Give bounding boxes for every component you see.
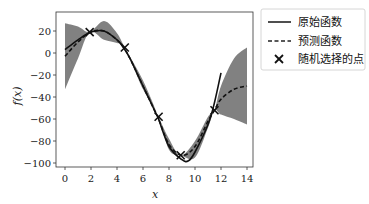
x-tick-label: 6: [140, 173, 146, 184]
x-tick-label: 8: [166, 173, 172, 184]
confidence-band-area: [65, 21, 247, 159]
y-tick-label: −100: [24, 158, 51, 169]
y-tick-label: −40: [30, 92, 51, 103]
x-tick-label: 2: [88, 173, 94, 184]
x-axis-label: x: [152, 188, 159, 201]
x-tick-label: 14: [241, 173, 254, 184]
y-axis: 200−20−40−60−80−100: [24, 26, 56, 169]
legend-label-points: 随机选择的点: [298, 52, 364, 66]
y-axis-label: f(x): [11, 87, 24, 107]
x-axis: 02468101214: [62, 167, 254, 184]
x-tick-label: 0: [62, 173, 68, 184]
x-tick-label: 12: [215, 173, 228, 184]
y-tick-label: 20: [38, 26, 51, 37]
legend-label-predicted: 预测函数: [298, 35, 342, 48]
x-tick-label: 4: [114, 173, 120, 184]
legend-label-original: 原始函数: [298, 15, 342, 29]
confidence-band: [65, 21, 247, 159]
y-tick-label: −80: [30, 136, 51, 147]
chart: 02468101214 200−20−40−60−80−100 x f(x) 原…: [0, 0, 369, 204]
y-tick-label: 0: [45, 48, 51, 59]
x-tick-label: 10: [189, 173, 202, 184]
y-tick-label: −20: [30, 70, 51, 81]
legend: 原始函数 预测函数 随机选择的点: [261, 9, 365, 70]
y-tick-label: −60: [30, 114, 51, 125]
